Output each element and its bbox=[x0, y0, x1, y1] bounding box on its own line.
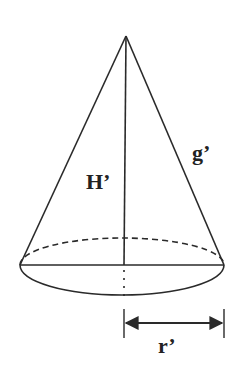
radius-label: r’ bbox=[158, 333, 176, 358]
cone-left-side bbox=[20, 36, 126, 265]
cone-diagram: H’ g’ r’ bbox=[0, 0, 234, 372]
height-label: H’ bbox=[86, 169, 110, 194]
slant-label: g’ bbox=[192, 140, 210, 165]
cone-height-line bbox=[124, 36, 126, 265]
base-back-arc bbox=[20, 238, 224, 265]
base-front-arc bbox=[20, 265, 224, 295]
